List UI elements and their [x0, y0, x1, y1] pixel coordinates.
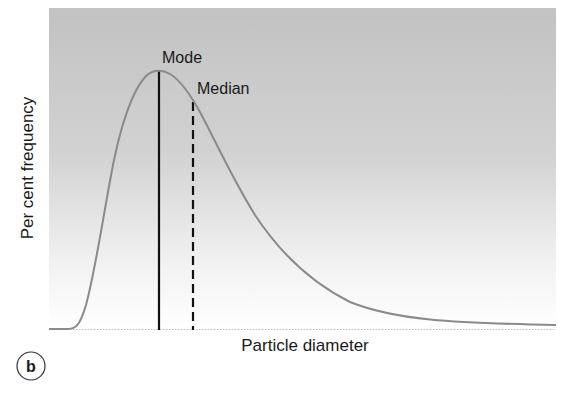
plot-area [49, 8, 556, 329]
mode-label: Mode [162, 49, 202, 66]
median-label: Median [197, 80, 249, 97]
panel-label: b [26, 358, 36, 375]
x-axis-label: Particle diameter [241, 336, 369, 355]
distribution-chart: Mode Median Per cent frequency Particle … [0, 0, 566, 397]
y-axis-label: Per cent frequency [18, 96, 37, 239]
